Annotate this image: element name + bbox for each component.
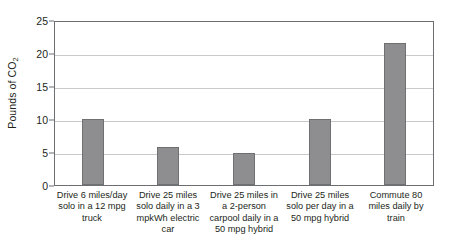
x-axis-category-label: Drive 25 miles solo per day in a 50 mpg … [282, 190, 358, 244]
y-axis-title: Pounds of CO2 [0, 0, 24, 186]
bars-layer [55, 22, 433, 185]
bar-slot [357, 22, 433, 185]
bar [157, 147, 179, 185]
x-axis-category-label: Drive 25 miles in a 2-person carpool dai… [206, 190, 282, 244]
y-axis-tick-label: 5 [42, 147, 48, 159]
x-axis-category-labels: Drive 6 miles/day solo in a 12 mpg truck… [54, 190, 434, 244]
bar [82, 119, 104, 185]
x-axis-category-label: Commute 80 miles daily by train [358, 190, 434, 244]
bar-slot [206, 22, 282, 185]
y-axis-tick-labels: 0510152025 [22, 21, 48, 186]
bar-chart: Pounds of CO2 0510152025 Drive 6 miles/d… [0, 0, 452, 244]
x-axis-category-label: Drive 25 miles solo daily in a 3 mpkWh e… [130, 190, 206, 244]
y-axis-title-text: Pounds of CO2 [6, 57, 18, 128]
bar [384, 43, 406, 185]
plot-area [54, 21, 434, 186]
y-axis-tick-label: 20 [36, 48, 48, 60]
y-axis-tick-label: 10 [36, 114, 48, 126]
y-axis-title-main: Pounds of CO [6, 62, 18, 129]
bar-slot [55, 22, 131, 185]
bar [233, 153, 255, 185]
bar [309, 119, 331, 185]
bar-slot [282, 22, 358, 185]
y-axis-title-subscript: 2 [11, 57, 20, 61]
y-axis-tick-label: 0 [42, 180, 48, 192]
x-axis-category-label: Drive 6 miles/day solo in a 12 mpg truck [54, 190, 130, 244]
y-axis-tick-label: 25 [36, 15, 48, 27]
y-axis-tick-label: 15 [36, 81, 48, 93]
bar-slot [131, 22, 207, 185]
